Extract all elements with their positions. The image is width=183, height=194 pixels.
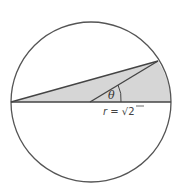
radicand: 2 <box>128 106 134 117</box>
geometry-diagram: θ r = √2 <box>0 0 183 194</box>
radius-prefix: r = <box>103 106 122 117</box>
theta-label: θ <box>108 89 115 102</box>
radius-label: r = √2 <box>103 106 135 117</box>
